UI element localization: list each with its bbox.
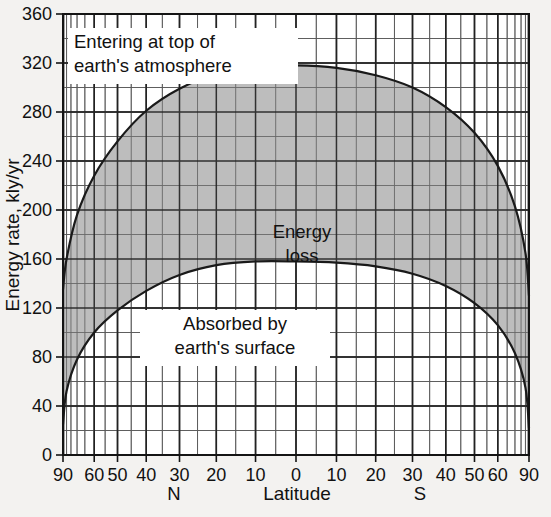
x-tick-label: 30 — [402, 465, 422, 485]
y-tick-label: 40 — [32, 396, 52, 416]
annotation-energy-loss-line2: loss — [286, 245, 319, 266]
annotation-absorbed-surface: Absorbed by earth's surface — [140, 310, 330, 366]
x-tick-label: 10 — [246, 465, 266, 485]
annotation-absorbed-surface-line1: Absorbed by — [183, 313, 288, 334]
y-axis-title: Energy rate, kly/yr — [2, 158, 23, 312]
annotation-entering-top-line1: Entering at top of — [74, 31, 216, 52]
annotation-entering-top-line2: earth's atmosphere — [74, 55, 232, 76]
y-tick-label: 160 — [22, 249, 52, 269]
chart-canvas: 04080120160200240280320360 9060504030201… — [0, 0, 551, 517]
y-tick-label: 320 — [22, 53, 52, 73]
y-tick-label: 360 — [22, 4, 52, 24]
x-tick-label: 40 — [436, 465, 456, 485]
annotation-entering-top: Entering at top of earth's atmosphere — [68, 28, 298, 84]
x-tick-label: 20 — [366, 465, 386, 485]
x-tick-label: 0 — [291, 465, 301, 485]
x-tick-label: 50 — [464, 465, 484, 485]
x-axis-tick-labels: 90605040302010010203040506090 — [53, 465, 539, 485]
x-tick-label: 90 — [519, 465, 539, 485]
y-tick-label: 240 — [22, 151, 52, 171]
y-tick-label: 0 — [42, 445, 52, 465]
solar-radiation-latitude-chart: 04080120160200240280320360 9060504030201… — [0, 0, 551, 517]
x-tick-label: 30 — [169, 465, 189, 485]
x-tick-label: 40 — [136, 465, 156, 485]
x-tick-label: 60 — [84, 465, 104, 485]
x-tick-label: 50 — [107, 465, 127, 485]
x-tick-label: 20 — [206, 465, 226, 485]
x-axis-title: Latitude — [263, 483, 331, 504]
y-tick-label: 280 — [22, 102, 52, 122]
x-tick-label: 10 — [326, 465, 346, 485]
hemisphere-south-label: S — [414, 483, 426, 504]
y-tick-label: 200 — [22, 200, 52, 220]
y-tick-label: 120 — [22, 298, 52, 318]
hemisphere-north-label: N — [167, 483, 180, 504]
y-tick-label: 80 — [32, 347, 52, 367]
x-tick-label: 90 — [53, 465, 73, 485]
annotation-energy-loss-line1: Energy — [273, 221, 332, 242]
annotation-absorbed-surface-line2: earth's surface — [175, 337, 296, 358]
x-tick-label: 60 — [488, 465, 508, 485]
